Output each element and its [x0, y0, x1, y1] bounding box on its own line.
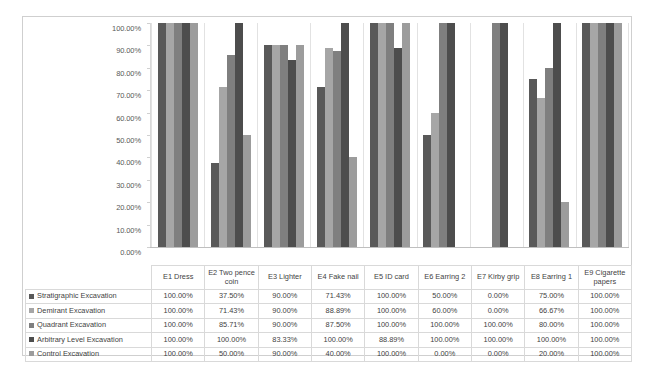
table-cell: 100.00%: [471, 318, 524, 332]
legend-swatch-icon: [29, 308, 34, 313]
data-table-region: E1 DressE2 Two pence coinE3 LighterE4 Fa…: [23, 265, 633, 357]
y-axis-tick-mark: [147, 90, 150, 91]
legend-item: Stratigraphic Excavation: [26, 290, 152, 304]
category-separator: [628, 23, 629, 247]
table-column-header: E3 Lighter: [258, 266, 311, 290]
y-axis-tick-mark: [147, 45, 150, 46]
table-cell: 83.33%: [258, 333, 311, 347]
bar: [614, 23, 622, 247]
table-cell: 90.00%: [258, 347, 311, 361]
bar: [545, 68, 553, 247]
table-column-header: E2 Two pence coin: [205, 266, 258, 290]
bar-group: [523, 23, 576, 247]
bar: [529, 79, 537, 247]
y-axis-tick-mark: [147, 113, 150, 114]
y-axis-tick-mark: [147, 247, 150, 248]
table-cell: 0.00%: [418, 347, 471, 361]
table-body: Stratigraphic Excavation100.00%37.50%90.…: [26, 290, 632, 362]
table-cell: 100.00%: [365, 304, 418, 318]
y-axis-tick-label: 0.00%: [120, 248, 141, 258]
table-cell: 100.00%: [205, 333, 258, 347]
legend-item: Quadrant Excavation: [26, 318, 152, 332]
legend-item: Demirant Excavation: [26, 304, 152, 318]
table-column-header: E6 Earring 2: [418, 266, 471, 290]
y-axis-tick-label: 90.00%: [116, 46, 141, 56]
y-axis-tick-label: 30.00%: [116, 181, 141, 191]
table-cell: 100.00%: [152, 333, 205, 347]
bar: [561, 202, 569, 247]
bar: [349, 157, 357, 247]
table-cell: 100.00%: [311, 333, 364, 347]
bar: [317, 87, 325, 247]
table-cell: 100.00%: [578, 347, 631, 361]
bar: [582, 23, 590, 247]
bar: [492, 23, 500, 247]
legend-item-label: Stratigraphic Excavation: [37, 291, 117, 300]
table-cell: 100.00%: [365, 347, 418, 361]
bar: [333, 51, 341, 247]
legend-swatch-icon: [29, 351, 34, 356]
bar-group: [470, 23, 523, 247]
table-cell: 85.71%: [205, 318, 258, 332]
y-axis-tick-mark: [147, 157, 150, 158]
bar: [235, 23, 243, 247]
legend-swatch-icon: [29, 294, 34, 299]
bar: [158, 23, 166, 247]
bar-group: [417, 23, 470, 247]
bar: [370, 23, 378, 247]
x-axis-line: [150, 247, 629, 248]
table-cell: 50.00%: [205, 347, 258, 361]
table-cell: 87.50%: [311, 318, 364, 332]
bar: [264, 45, 272, 247]
legend-item-label: Demirant Excavation: [37, 306, 105, 315]
bar: [325, 48, 333, 247]
bar: [174, 23, 182, 247]
bar: [211, 163, 219, 247]
bar: [288, 60, 296, 247]
y-axis-tick-mark: [147, 68, 150, 69]
table-column-header: E1 Dress: [152, 266, 205, 290]
y-axis-tick-mark: [147, 135, 150, 136]
bar-group: [363, 23, 416, 247]
bar: [378, 23, 386, 247]
bar: [590, 23, 598, 247]
table-cell: 75.00%: [525, 290, 578, 304]
y-axis-tick-label: 70.00%: [116, 91, 141, 101]
table-cell: 100.00%: [152, 347, 205, 361]
bars-area: [151, 23, 629, 247]
bar: [431, 113, 439, 247]
bar: [166, 23, 174, 247]
table-cell: 90.00%: [258, 304, 311, 318]
y-axis-tick-mark: [147, 180, 150, 181]
bar: [296, 45, 304, 247]
table-cell: 66.67%: [525, 304, 578, 318]
table-cell: 100.00%: [418, 318, 471, 332]
y-axis-tick-label: 20.00%: [116, 203, 141, 213]
y-axis-tick-label: 100.00%: [112, 24, 141, 34]
table-cell: 100.00%: [578, 304, 631, 318]
legend-swatch-icon: [29, 323, 34, 328]
bar: [394, 48, 402, 247]
table-cell: 100.00%: [578, 290, 631, 304]
bar: [280, 45, 288, 247]
table-cell: 20.00%: [525, 347, 578, 361]
table-cell: 40.00%: [311, 347, 364, 361]
legend-item-label: Quadrant Excavation: [37, 320, 106, 329]
table-row: Arbitrary Level Excavation100.00%100.00%…: [26, 333, 632, 347]
bar: [606, 23, 614, 247]
bar-group: [204, 23, 257, 247]
bar: [402, 23, 410, 247]
legend-item-label: Arbitrary Level Excavation: [37, 335, 123, 344]
table-cell: 0.00%: [471, 347, 524, 361]
table-cell: 0.00%: [471, 304, 524, 318]
table-row: Stratigraphic Excavation100.00%37.50%90.…: [26, 290, 632, 304]
y-axis-tick-label: 40.00%: [116, 158, 141, 168]
table-cell: 88.89%: [311, 304, 364, 318]
bar: [243, 135, 251, 247]
table-row: Control Excavation100.00%50.00%90.00%40.…: [26, 347, 632, 361]
y-axis-tick-label: 80.00%: [116, 69, 141, 79]
y-axis-tick-label: 10.00%: [116, 226, 141, 236]
plot-region: 0.00%10.00%20.00%30.00%40.00%50.00%60.00…: [23, 17, 633, 265]
table-cell: 100.00%: [365, 290, 418, 304]
table-corner-cell: [26, 266, 152, 290]
